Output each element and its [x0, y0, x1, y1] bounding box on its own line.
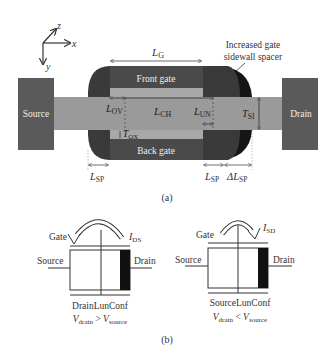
drain-label-left: Drain — [134, 256, 156, 266]
config-label-right: SourceLunConf — [210, 298, 272, 308]
back-gate-label: Back gate — [137, 146, 175, 156]
caption-b: (b) — [161, 334, 173, 346]
gate-label-right: Gate — [196, 230, 214, 240]
source-lun-config: Gate ISD Source Drain SourceLunConf Vdra… — [175, 222, 295, 324]
underlap-region-left — [120, 250, 130, 290]
config-label-left: DrainLunConf — [72, 301, 129, 311]
source-label: Source — [23, 109, 49, 119]
condition-left: Vdrain > Vsource — [73, 314, 127, 326]
lsp-right-label: LSP — [204, 171, 219, 184]
x-axis-label: x — [71, 38, 77, 49]
front-oxide — [110, 88, 203, 97]
condition-right: Vdrain < Vsource — [213, 312, 267, 324]
underlap-region-right — [258, 248, 268, 288]
svg-text:sidewall spacer: sidewall spacer — [224, 52, 283, 62]
coordinate-axes: z x y — [43, 20, 77, 72]
gate-label-left: Gate — [49, 232, 67, 242]
source-label-left: Source — [37, 256, 63, 266]
svg-text:LG: LG — [151, 46, 164, 60]
delta-lsp-label: ΔLSP — [226, 171, 247, 184]
ids-label: IDS — [128, 231, 141, 244]
drain-lun-config: Gate IDS Source Drain DrainLunConf Vdrai… — [37, 222, 156, 326]
y-axis-label: y — [45, 61, 51, 72]
gate-length-dimension: LG — [111, 46, 201, 61]
source-label-right: Source — [175, 255, 201, 265]
svg-text:Increased gate: Increased gate — [226, 40, 281, 50]
lsp-left-label: LSP — [89, 171, 104, 184]
front-gate-label: Front gate — [137, 74, 176, 84]
z-axis-label: z — [56, 20, 61, 31]
spacer-callout: Increased gate sidewall spacer — [224, 40, 283, 73]
mosfet-diagram-figure: z x y LG Increased gate sidewall spacer … — [0, 0, 335, 355]
isd-label: ISD — [262, 222, 275, 235]
drain-label: Drain — [290, 109, 312, 119]
drain-label-right: Drain — [273, 255, 295, 265]
caption-a: (a) — [161, 192, 172, 204]
